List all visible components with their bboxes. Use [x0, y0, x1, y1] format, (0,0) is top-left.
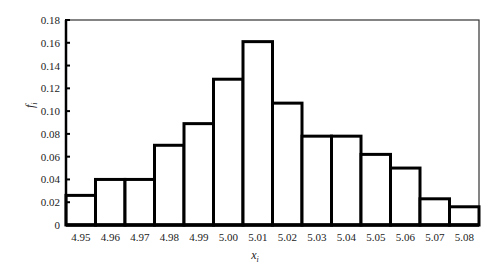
y-tick-label: 0.18 [41, 14, 61, 26]
x-axis-title: xi [250, 248, 259, 264]
x-tick-label: 5.03 [307, 231, 327, 243]
x-axis-title-sub: i [257, 255, 259, 264]
histogram-bar [243, 42, 273, 225]
x-tick-label: 5.02 [278, 231, 297, 243]
histogram-bar [66, 195, 96, 225]
x-tick-label: 5.05 [366, 231, 386, 243]
histogram-bar [155, 145, 185, 225]
y-axis: 00.020.040.060.080.100.120.140.160.18 [41, 14, 70, 231]
y-tick-label: 0.06 [41, 151, 61, 163]
x-tick-label: 5.04 [337, 231, 357, 243]
y-tick-label: 0.04 [41, 173, 61, 185]
x-tick-label: 5.01 [248, 231, 267, 243]
x-tick-label: 4.98 [160, 231, 180, 243]
y-tick-label: 0.08 [41, 128, 61, 140]
histogram-bar [214, 79, 244, 225]
histogram-chart: 00.020.040.060.080.100.120.140.160.18 4.… [0, 0, 491, 274]
x-tick-label: 5.07 [425, 231, 445, 243]
histogram-bar [273, 103, 303, 225]
plot-area [66, 20, 479, 225]
histogram-bar [302, 136, 332, 225]
histogram-bar [450, 207, 480, 225]
histogram-bar [361, 154, 391, 225]
y-tick-label: 0 [55, 219, 61, 231]
histogram-bar [125, 179, 155, 225]
y-tick-label: 0.02 [41, 196, 60, 208]
histogram-bar [184, 124, 214, 225]
y-axis-title: fi [23, 102, 39, 108]
histogram-bar [420, 199, 450, 225]
y-tick-label: 0.12 [41, 82, 60, 94]
y-tick-label: 0.10 [41, 105, 61, 117]
y-axis-title-sub: i [30, 102, 39, 104]
x-tick-label: 5.08 [455, 231, 475, 243]
y-tick-label: 0.14 [41, 60, 61, 72]
x-tick-label: 5.00 [219, 231, 239, 243]
histogram-bar [391, 168, 421, 225]
x-tick-label: 4.95 [71, 231, 91, 243]
x-axis: 4.954.964.974.984.995.005.015.025.035.04… [66, 225, 479, 243]
x-tick-label: 5.06 [396, 231, 416, 243]
x-tick-label: 4.99 [189, 231, 209, 243]
histogram-bar [332, 136, 362, 225]
x-tick-label: 4.97 [130, 231, 150, 243]
x-tick-label: 4.96 [101, 231, 121, 243]
y-tick-label: 0.16 [41, 37, 61, 49]
histogram-bar [96, 179, 126, 225]
